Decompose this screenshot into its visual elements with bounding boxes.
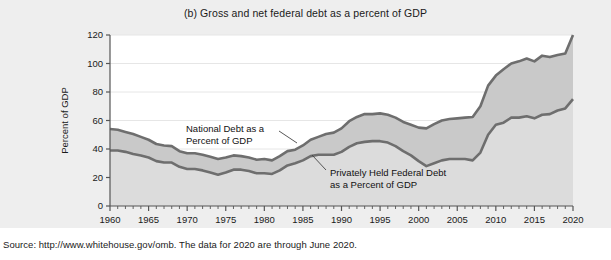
y-tick-label-20: 20 bbox=[92, 172, 103, 183]
annotation-line-2: as a Percent of GDP bbox=[330, 179, 417, 190]
x-tick-label-2000: 2000 bbox=[408, 214, 429, 225]
x-tick-label-2020: 2020 bbox=[562, 214, 583, 225]
y-tick-label-100: 100 bbox=[87, 58, 103, 69]
annotation-line-1: National Debt as a bbox=[186, 123, 265, 134]
x-tick-label-1965: 1965 bbox=[138, 214, 159, 225]
x-tick-label-2015: 2015 bbox=[524, 214, 545, 225]
annotation-line-2: Percent of GDP bbox=[186, 135, 253, 146]
x-tick-label-1970: 1970 bbox=[177, 214, 198, 225]
y-tick-label-80: 80 bbox=[92, 86, 103, 97]
x-axis-title: Year bbox=[332, 229, 351, 232]
source-note: Source: http://www.whitehouse.gov/omb. T… bbox=[3, 239, 357, 250]
y-tick-label-40: 40 bbox=[92, 143, 103, 154]
y-tick-label-60: 60 bbox=[92, 115, 103, 126]
y-tick-label-0: 0 bbox=[98, 200, 103, 211]
chart-plot: 0204060801001201960196519701975198019851… bbox=[0, 0, 611, 232]
y-axis-title: Percent of GDP bbox=[59, 87, 70, 154]
x-tick-label-2005: 2005 bbox=[447, 214, 468, 225]
x-tick-label-1990: 1990 bbox=[331, 214, 352, 225]
y-tick-label-120: 120 bbox=[87, 29, 103, 40]
figure-container: (b) Gross and net federal debt as a perc… bbox=[0, 0, 611, 260]
x-tick-label-1995: 1995 bbox=[370, 214, 391, 225]
x-tick-label-1960: 1960 bbox=[99, 214, 120, 225]
x-tick-label-1980: 1980 bbox=[254, 214, 275, 225]
x-tick-label-1975: 1975 bbox=[215, 214, 236, 225]
x-tick-label-2010: 2010 bbox=[485, 214, 506, 225]
annotation-line-1: Privately Held Federal Debt bbox=[330, 167, 447, 178]
x-tick-label-1985: 1985 bbox=[292, 214, 313, 225]
